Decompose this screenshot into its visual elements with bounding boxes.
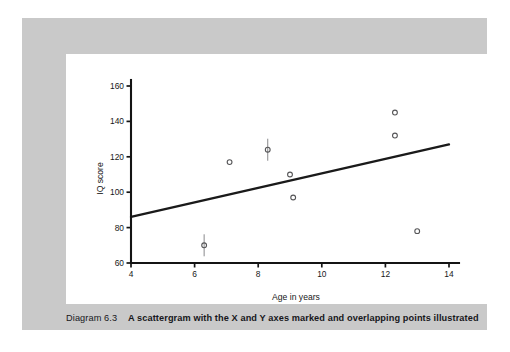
data-point-layer: [202, 110, 420, 256]
y-axis-title: IQ score: [95, 162, 105, 195]
overlapping-data-point: [202, 234, 207, 256]
data-point-marker: [393, 133, 398, 138]
figure-caption: Diagram 6.3A scattergram with the X and …: [66, 311, 496, 326]
regression-line: [131, 144, 449, 217]
axis-label-layer: 6080100120140160468101214Age in yearsIQ …: [95, 81, 454, 302]
y-axis-tick-label: 140: [110, 116, 124, 126]
data-point-marker: [288, 172, 293, 177]
x-axis-tick-label: 8: [256, 269, 261, 279]
y-axis-tick-label: 160: [110, 81, 124, 91]
x-axis-tick-label: 14: [444, 269, 454, 279]
x-axis-tick-label: 10: [317, 269, 327, 279]
x-axis-tick-label: 12: [381, 269, 391, 279]
caption-text: A scattergram with the X and Y axes mark…: [128, 311, 480, 326]
data-point-marker: [393, 110, 398, 115]
figure-gray-panel: 6080100120140160468101214Age in yearsIQ …: [22, 18, 487, 330]
data-point-marker: [291, 195, 296, 200]
scattergram-chart: 6080100120140160468101214Age in yearsIQ …: [66, 54, 487, 304]
trend-line-layer: [131, 144, 449, 217]
x-axis-title: Age in years: [272, 292, 320, 302]
y-axis-tick-label: 100: [110, 187, 124, 197]
chart-card: 6080100120140160468101214Age in yearsIQ …: [66, 54, 487, 304]
y-axis-tick-label: 80: [115, 223, 125, 233]
data-point-marker: [415, 229, 420, 234]
y-axis-tick-label: 60: [115, 258, 125, 268]
overlapping-data-point: [265, 139, 270, 161]
x-axis-tick-label: 6: [192, 269, 197, 279]
figure-page: 6080100120140160468101214Age in yearsIQ …: [0, 0, 510, 352]
caption-label: Diagram 6.3: [66, 311, 128, 326]
y-axis-tick-label: 120: [110, 152, 124, 162]
x-axis-tick-label: 4: [129, 269, 134, 279]
data-point-marker: [227, 160, 232, 165]
chart-svg: 6080100120140160468101214Age in yearsIQ …: [66, 54, 487, 304]
